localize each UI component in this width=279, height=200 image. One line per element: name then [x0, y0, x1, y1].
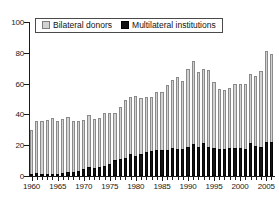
bar-segment-multilateral	[103, 166, 106, 176]
bar-segment-bilateral	[61, 119, 64, 176]
bar-group	[244, 22, 247, 176]
bar-segment-multilateral	[93, 168, 96, 176]
bar-group	[259, 22, 262, 176]
bar-segment-multilateral	[192, 144, 195, 176]
bar-group	[56, 22, 59, 176]
bar-segment-multilateral	[233, 148, 236, 176]
y-axis-tick	[24, 114, 29, 115]
x-axis-tick	[240, 176, 241, 181]
x-axis-tick	[115, 176, 116, 180]
stacked-bar-chart: 020406080100 Bilateral donors Multilater…	[0, 0, 279, 200]
x-axis-tick	[52, 176, 53, 180]
x-axis-tick	[157, 176, 158, 180]
x-axis-tick	[235, 176, 236, 180]
bar-segment-multilateral	[270, 142, 273, 176]
bar-segment-bilateral	[51, 118, 54, 176]
x-axis-tick	[131, 176, 132, 180]
x-axis-tick	[68, 176, 69, 180]
bar-segment-multilateral	[155, 150, 158, 176]
bar-segment-bilateral	[46, 120, 49, 176]
bar-group	[212, 22, 215, 176]
bar-group	[93, 22, 96, 176]
bar-group	[46, 22, 49, 176]
bar-segment-multilateral	[249, 143, 252, 176]
bar-group	[145, 22, 148, 176]
bar-group	[40, 22, 43, 176]
x-axis-tick-label: 1960	[23, 182, 40, 191]
bar-group	[139, 22, 142, 176]
bar-group	[218, 22, 221, 176]
bar-segment-multilateral	[82, 169, 85, 176]
x-axis-tick	[58, 176, 59, 181]
bar-segment-multilateral	[129, 154, 132, 176]
bar-segment-multilateral	[166, 150, 169, 176]
bar-segment-multilateral	[244, 149, 247, 176]
x-axis-tick-label: 1975	[101, 182, 118, 191]
x-axis-tick	[224, 176, 225, 180]
bar-segment-multilateral	[228, 148, 231, 176]
bar-group	[166, 22, 169, 176]
x-axis-tick	[42, 176, 43, 180]
bar-group	[119, 22, 122, 176]
x-axis-tick	[110, 176, 111, 181]
bar-group	[160, 22, 163, 176]
bar-group	[87, 22, 90, 176]
bar-segment-multilateral	[254, 146, 257, 176]
bar-segment-multilateral	[207, 147, 210, 176]
bar-segment-bilateral	[35, 121, 38, 176]
x-axis-tick-label: 2000	[232, 182, 249, 191]
bar-segment-multilateral	[265, 142, 268, 176]
x-axis-tick	[178, 176, 179, 180]
bar-group	[197, 22, 200, 176]
bar-segment-multilateral	[259, 147, 262, 176]
bar-segment-multilateral	[139, 154, 142, 176]
x-axis-tick	[32, 176, 33, 181]
x-axis-tick	[256, 176, 257, 180]
bar-group	[134, 22, 137, 176]
bar-segment-bilateral	[72, 121, 75, 176]
bar-segment-multilateral	[145, 152, 148, 176]
bar-segment-multilateral	[150, 151, 153, 176]
x-axis-tick	[99, 176, 100, 180]
bar-segment-multilateral	[202, 143, 205, 176]
x-axis-tick	[146, 176, 147, 180]
bar-group	[113, 22, 116, 176]
y-axis-tick	[24, 84, 29, 85]
bar-segment-multilateral	[171, 148, 174, 176]
y-axis-tick-label: 60	[2, 79, 24, 88]
y-axis-tick	[24, 22, 29, 23]
bar-group	[228, 22, 231, 176]
y-axis-tick-label: 80	[2, 48, 24, 57]
x-axis-tick	[162, 176, 163, 181]
bar-group	[129, 22, 132, 176]
bar-group	[254, 22, 257, 176]
bar-segment-bilateral	[56, 121, 59, 176]
x-axis-tick	[188, 176, 189, 181]
y-axis: 020406080100	[0, 0, 24, 200]
x-axis-tick	[141, 176, 142, 180]
bar-group	[51, 22, 54, 176]
legend-item-bilateral-donors: Bilateral donors	[42, 21, 112, 30]
bar-group	[249, 22, 252, 176]
x-axis-tick	[230, 176, 231, 180]
bar-segment-multilateral	[176, 149, 179, 176]
bar-segment-bilateral	[77, 121, 80, 176]
bar-group	[186, 22, 189, 176]
bar-group	[202, 22, 205, 176]
x-axis-tick-label: 1990	[179, 182, 196, 191]
bar-group	[270, 22, 273, 176]
x-axis-tick	[271, 176, 272, 180]
bar-group	[35, 22, 38, 176]
bar-segment-multilateral	[197, 147, 200, 176]
bar-group	[82, 22, 85, 176]
x-axis-tick	[94, 176, 95, 180]
bar-group	[207, 22, 210, 176]
bar-group	[77, 22, 80, 176]
bar-segment-multilateral	[98, 167, 101, 176]
x-axis-tick	[152, 176, 153, 180]
bar-segment-bilateral	[30, 130, 33, 176]
y-axis-tick-label: 0	[2, 172, 24, 181]
plot-area	[29, 22, 274, 176]
legend-item-multilateral-institutions: Multilateral institutions	[121, 21, 216, 30]
bar-segment-multilateral	[134, 156, 137, 176]
